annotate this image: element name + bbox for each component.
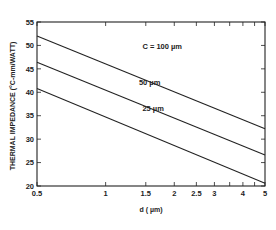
thermal-impedance-chart: 2025303540455055 0.511.522.5345 C = 100 … xyxy=(0,0,276,230)
x-tick-label: 2.5 xyxy=(191,189,201,198)
y-tick-label: 45 xyxy=(26,65,34,74)
x-tick-label: 1.5 xyxy=(141,189,151,198)
y-tick-label: 55 xyxy=(26,18,34,27)
y-tick-label: 50 xyxy=(26,41,34,50)
y-axis-title: THERMAL IMPEDANCE (°C-mm/WATT) xyxy=(9,42,17,171)
y-tick-label: 25 xyxy=(26,158,34,167)
x-tick-label: 3 xyxy=(212,189,216,198)
x-axis-title: d ( µm) xyxy=(139,206,162,214)
y-tick-label: 30 xyxy=(26,135,34,144)
x-tick-label: 5 xyxy=(263,189,267,198)
series-label: C = 100 µm xyxy=(142,42,182,51)
x-tick-label: 0.5 xyxy=(32,189,42,198)
series-label: 50 µm xyxy=(139,78,161,87)
x-tick-label: 2 xyxy=(172,189,176,198)
y-tick-label: 35 xyxy=(26,111,34,120)
series-line xyxy=(37,89,265,184)
series-labels: C = 100 µm50 µm25 µm xyxy=(139,42,182,113)
series-label: 25 µm xyxy=(142,104,164,113)
x-tick-label: 4 xyxy=(241,189,246,198)
x-tick-label: 1 xyxy=(104,189,108,198)
y-tick-label: 40 xyxy=(26,88,34,97)
